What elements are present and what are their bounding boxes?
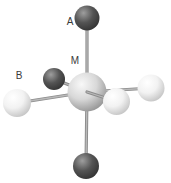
label-b: B	[16, 70, 23, 81]
atom-front	[103, 88, 130, 115]
molecular-structure-figure: ABM	[0, 0, 171, 183]
atom-left	[3, 89, 31, 117]
atom-back	[43, 68, 65, 90]
atom-right	[138, 75, 165, 102]
atom-bottom	[73, 153, 99, 179]
label-m: M	[71, 55, 79, 66]
label-a: A	[67, 16, 74, 27]
atom-top	[75, 6, 100, 31]
molecule-svg: ABM	[0, 0, 171, 183]
